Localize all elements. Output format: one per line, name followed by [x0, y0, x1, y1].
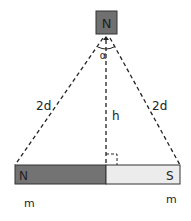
left-distance-label: 2d: [36, 99, 51, 113]
left-dashed-line: [15, 38, 103, 165]
angle-label: α: [100, 50, 107, 61]
magnet-diagram: N N S α 2d 2d h m m: [0, 0, 191, 221]
bar-magnet-north: [15, 165, 106, 184]
right-angle-marker: [106, 154, 117, 165]
top-magnet-pole-label: N: [102, 16, 112, 31]
apex-arrow: [103, 36, 109, 40]
right-dashed-line: [110, 38, 180, 165]
bar-south-label: S: [166, 169, 174, 183]
right-distance-label: 2d: [152, 99, 167, 113]
right-mass-label: m: [166, 193, 177, 206]
bar-north-label: N: [19, 169, 28, 183]
height-label: h: [112, 109, 120, 123]
left-mass-label: m: [24, 197, 35, 210]
